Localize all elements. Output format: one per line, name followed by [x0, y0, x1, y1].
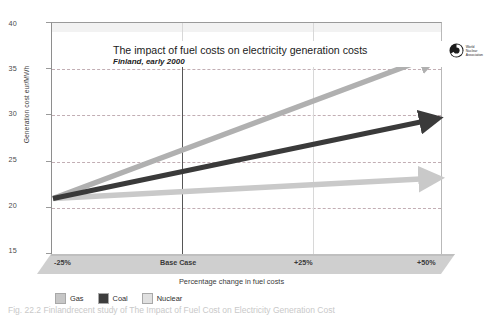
y-tick-label: 35: [0, 64, 17, 73]
chart-title-box: The impact of fuel costs on electricity …: [99, 41, 488, 67]
gridline-25: [52, 162, 441, 163]
figure-caption: Fig. 22.2 Finlandrecent study of The Imp…: [8, 305, 458, 315]
title-background-band: [52, 23, 441, 32]
chart-subtitle: Finland, early 2000: [113, 57, 185, 66]
y-axis-title: Generation cost eur/MWh: [23, 40, 30, 170]
gridline-20: [52, 208, 441, 209]
y-tick-label: 30: [0, 109, 17, 118]
legend-label-nuclear: Nuclear: [157, 294, 182, 303]
legend-item-nuclear: Nuclear: [142, 293, 182, 304]
x-tick-label: -25%: [54, 258, 71, 267]
legend-swatch-gas: [55, 293, 66, 304]
y-tick-label: 20: [0, 201, 17, 210]
axis-floor: [37, 254, 455, 274]
x-tick-label: Base Case: [160, 258, 196, 267]
y-tick-label: 40: [0, 19, 17, 28]
plot-area: The impact of fuel costs on electricity …: [51, 22, 442, 254]
chart-frame: 40 35 30 25 20 15 Generation cost eur/MW…: [5, 5, 458, 295]
legend-label-gas: Gas: [70, 294, 84, 303]
gridline-30: [52, 115, 441, 116]
series-line-gas: [53, 57, 430, 198]
logo-line-3: Association: [466, 53, 483, 57]
series-line-nuclear: [53, 179, 430, 199]
world-nuclear-association-icon: [449, 43, 464, 58]
y-tick-label: 25: [0, 155, 17, 164]
legend-item-coal: Coal: [98, 293, 128, 304]
logo: World Nuclear Association: [449, 43, 483, 58]
legend-swatch-nuclear: [142, 293, 153, 304]
x-tick-label: +50%: [417, 258, 436, 267]
gridline-35: [52, 69, 441, 70]
legend: Gas Coal Nuclear: [55, 293, 182, 304]
x-tick-label: +25%: [294, 258, 313, 267]
base-case-line: [182, 44, 183, 255]
y-tick-label: 15: [0, 246, 17, 255]
legend-label-coal: Coal: [113, 294, 128, 303]
legend-swatch-coal: [98, 293, 109, 304]
series-line-coal: [53, 120, 430, 199]
page-title: The impact of fuel costs on electricity …: [113, 44, 367, 56]
logo-text-group: World Nuclear Association: [466, 45, 483, 57]
x-axis-title: Percentage change in fuel costs: [5, 277, 458, 286]
legend-item-gas: Gas: [55, 293, 84, 304]
